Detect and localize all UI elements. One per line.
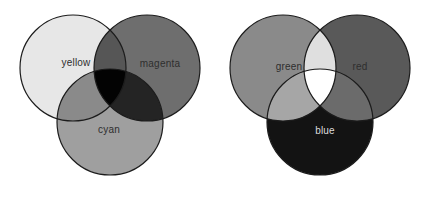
magenta-label: magenta (140, 58, 181, 69)
color-mixing-figure: yellow magenta cyan (0, 0, 437, 198)
cyan-label: cyan (98, 124, 120, 135)
blue-label: blue (315, 125, 335, 136)
yellow-label: yellow (62, 57, 92, 68)
venn-subtractive: yellow magenta cyan (20, 15, 200, 175)
figure-canvas: yellow magenta cyan (0, 0, 437, 198)
venn-additive: green red blue (230, 15, 410, 175)
red-label: red (352, 61, 367, 72)
green-label: green (276, 61, 303, 72)
